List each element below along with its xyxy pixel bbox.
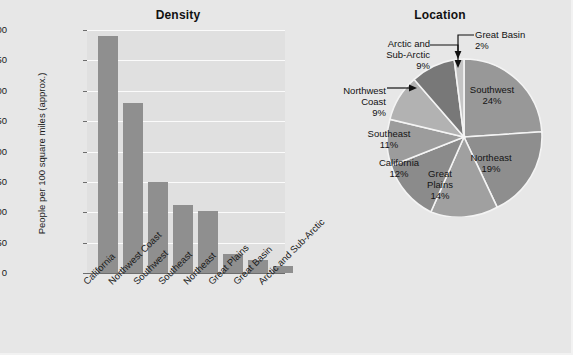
pie-label-california: California 12%	[368, 157, 430, 179]
location-pie-chart-panel: Location	[300, 0, 573, 355]
y-tick-label-300: 300	[0, 86, 7, 96]
pie-label-northeast: Northeast 19%	[453, 152, 529, 174]
pie-label-northeast-name: Northeast	[470, 152, 511, 163]
pie-callout-arctic-and-sub-arctic: Arctic and Sub-Arctic 9%	[358, 38, 430, 71]
y-tick-label-50: 50	[0, 238, 7, 248]
pie-label-southwest-name: Southwest	[470, 84, 514, 95]
pie-callout-northwest-name-1: Northwest	[343, 85, 386, 96]
y-tick-label-150: 150	[0, 177, 7, 187]
pie-label-great-plains-name-1: Great	[428, 168, 452, 179]
pie-label-southeast: Southeast 11%	[358, 128, 420, 150]
pie-label-great-plains-percent: 14%	[430, 190, 449, 201]
y-axis-label: People per 100 square miles (approx.)	[36, 69, 47, 239]
pie-label-california-name: California	[379, 157, 419, 168]
pie-callout-arctic-name-1: Arctic and	[388, 38, 430, 49]
pie-label-great-plains-name-2: Plains	[427, 179, 453, 190]
pie-label-california-percent: 12%	[389, 168, 408, 179]
pie-callout-great-basin: Great Basin 2%	[475, 29, 565, 51]
y-tick-mark-300	[83, 91, 87, 92]
pie-callout-northwest-coast: Northwest Coast 9%	[314, 85, 386, 118]
y-tick-mark-400	[83, 30, 87, 31]
pie-callout-great-basin-name: Great Basin	[475, 29, 525, 40]
pie-label-southeast-name: Southeast	[368, 128, 411, 139]
bar-plot-area	[87, 30, 285, 273]
y-tick-mark-50	[83, 243, 87, 244]
y-tick-label-250: 250	[0, 116, 7, 126]
gridline-400	[87, 30, 285, 31]
pie-label-northeast-percent: 19%	[481, 163, 500, 174]
density-bar-chart-panel: Density	[0, 0, 300, 355]
y-tick-mark-100	[83, 212, 87, 213]
y-tick-mark-250	[83, 121, 87, 122]
pie-callout-northwest-name-2: Coast	[361, 96, 386, 107]
density-chart-title: Density	[78, 8, 278, 22]
pie-label-southwest: Southwest 24%	[452, 84, 532, 106]
y-tick-label-200: 200	[0, 147, 7, 157]
pie-callout-northwest-percent: 9%	[372, 107, 386, 118]
y-tick-label-0: 0	[0, 268, 7, 278]
pie-callout-arctic-percent: 9%	[416, 60, 430, 71]
y-tick-label-100: 100	[0, 207, 7, 217]
y-tick-label-350: 350	[0, 55, 7, 65]
pie-label-southeast-percent: 11%	[380, 139, 398, 150]
pie-label-southwest-percent: 24%	[482, 95, 501, 106]
y-tick-mark-200	[83, 152, 87, 153]
bar-california[interactable]	[98, 36, 118, 274]
y-tick-mark-350	[83, 60, 87, 61]
figure-canvas: Density	[0, 0, 573, 355]
y-tick-label-400: 400	[0, 25, 7, 35]
pie-callout-arctic-name-2: Sub-Arctic	[386, 49, 430, 60]
location-chart-title: Location	[360, 8, 520, 22]
y-tick-mark-150	[83, 182, 87, 183]
pie-callout-great-basin-percent: 2%	[475, 40, 489, 51]
